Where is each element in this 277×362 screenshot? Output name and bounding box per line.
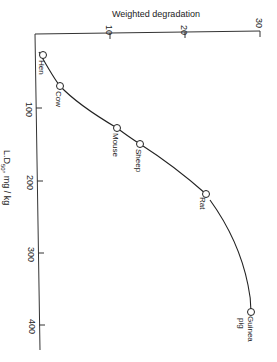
chart: 10 20 30 Weighted degradation 100 200 30… — [0, 0, 277, 362]
point-label-cow: Cow — [54, 91, 63, 107]
data-point-sheep — [137, 141, 144, 148]
point-label-rat: Rat — [198, 197, 207, 210]
y-axis — [35, 34, 40, 350]
x-tick-label: 30 — [254, 18, 264, 28]
y-tick-label: 400 — [27, 319, 37, 334]
data-point-cow — [57, 83, 64, 90]
x-axis-label: Weighted degradation — [112, 9, 200, 19]
data-point-mouse — [114, 125, 121, 132]
point-label-pig: pig — [237, 318, 246, 329]
x-tick-label: 20 — [179, 25, 189, 35]
x-axis — [35, 31, 260, 34]
svg-text:L.D50, mg / kg: L.D50, mg / kg — [0, 150, 12, 205]
point-label-hen: Hen — [37, 60, 46, 75]
x-tick-label: 10 — [104, 25, 114, 35]
trend-curve — [39, 52, 251, 312]
point-label-sheep: Sheep — [134, 149, 143, 173]
y-tick-label: 100 — [24, 102, 34, 117]
y-axis-label: L.D50, mg / kg — [0, 150, 12, 205]
point-label-guinea: Guinea — [246, 316, 255, 342]
point-label-mouse: Mouse — [111, 133, 120, 158]
y-tick-label: 200 — [25, 175, 35, 190]
y-tick-label: 300 — [26, 247, 36, 262]
data-point-guinea-pig — [248, 309, 255, 316]
data-point-hen — [40, 52, 47, 59]
